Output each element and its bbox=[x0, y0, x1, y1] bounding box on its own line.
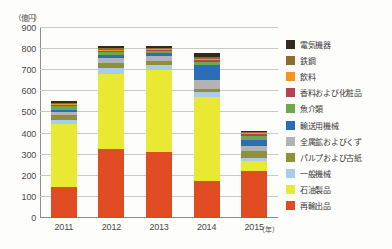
legend-item[interactable]: 飲料 bbox=[286, 68, 390, 84]
y-axis-unit-label: （億円） bbox=[14, 12, 41, 23]
legend-item[interactable]: 電気機器 bbox=[286, 36, 390, 52]
stacked-bar[interactable] bbox=[241, 131, 267, 218]
y-tick-label-0: 0 bbox=[2, 213, 36, 223]
legend-item[interactable]: 石油製品 bbox=[286, 182, 390, 198]
legend-swatch-icon bbox=[286, 185, 295, 194]
bar-segment[interactable] bbox=[194, 65, 220, 80]
y-tick-label-100: 100 bbox=[2, 192, 36, 202]
y-tick-label-200: 200 bbox=[2, 171, 36, 181]
legend-swatch-icon bbox=[286, 56, 295, 65]
legend-label: 輸送用機械 bbox=[300, 120, 339, 131]
bar-segment[interactable] bbox=[241, 171, 267, 218]
legend-label: 電気機器 bbox=[300, 39, 331, 50]
y-tick-label-300: 300 bbox=[2, 150, 36, 160]
legend-label: 一般機械 bbox=[300, 168, 331, 179]
legend-label: 全属鉱およびくず bbox=[300, 136, 362, 147]
x-tick-label-2012: 2012 bbox=[85, 222, 137, 232]
legend-label: 香料および化粧品 bbox=[300, 87, 362, 98]
legend-swatch-icon bbox=[286, 169, 295, 178]
legend-item[interactable]: 香料および化粧品 bbox=[286, 85, 390, 101]
bar-segment[interactable] bbox=[241, 151, 267, 158]
legend-swatch-icon bbox=[286, 88, 295, 97]
legend-item[interactable]: 一般機械 bbox=[286, 166, 390, 182]
legend-item[interactable]: パルプおよび古紙 bbox=[286, 149, 390, 165]
y-tick-label-500: 500 bbox=[2, 107, 36, 117]
y-tick-label-600: 600 bbox=[2, 86, 36, 96]
bar-segment[interactable] bbox=[98, 74, 124, 149]
bar-segment[interactable] bbox=[146, 152, 172, 218]
bar-segment[interactable] bbox=[241, 161, 267, 171]
legend-label: 再輸出品 bbox=[300, 200, 331, 211]
bar-segment[interactable] bbox=[51, 124, 77, 187]
gridline-900 bbox=[40, 27, 278, 28]
bar-segment[interactable] bbox=[146, 70, 172, 151]
legend-swatch-icon bbox=[286, 121, 295, 130]
legend-item[interactable]: 鉄鋼 bbox=[286, 52, 390, 68]
bar-segment[interactable] bbox=[194, 80, 220, 89]
plot-area bbox=[40, 28, 278, 218]
x-axis-unit-label: （年） bbox=[258, 224, 279, 234]
stacked-bar[interactable] bbox=[51, 101, 77, 218]
stacked-bar[interactable] bbox=[194, 53, 220, 218]
stacked-bar[interactable] bbox=[146, 46, 172, 218]
legend-swatch-icon bbox=[286, 40, 295, 49]
y-tick-label-400: 400 bbox=[2, 129, 36, 139]
legend-item[interactable]: 輸送用機械 bbox=[286, 117, 390, 133]
bar-segment[interactable] bbox=[98, 149, 124, 218]
bar-segment[interactable] bbox=[194, 181, 220, 218]
legend-swatch-icon bbox=[286, 137, 295, 146]
x-tick-label-2014: 2014 bbox=[181, 222, 233, 232]
x-tick-label-2011: 2011 bbox=[38, 222, 90, 232]
bar-segment[interactable] bbox=[51, 187, 77, 218]
legend-swatch-icon bbox=[286, 153, 295, 162]
legend-swatch-icon bbox=[286, 201, 295, 210]
stacked-bar[interactable] bbox=[98, 46, 124, 218]
y-tick-label-800: 800 bbox=[2, 44, 36, 54]
stacked-bar-chart: （億円） 0100200300400500600700800900 201120… bbox=[0, 0, 392, 249]
legend-item[interactable]: 全属鉱およびくず bbox=[286, 133, 390, 149]
legend-item[interactable]: 魚介類 bbox=[286, 101, 390, 117]
legend-label: パルプおよび古紙 bbox=[300, 152, 362, 163]
bar-segment[interactable] bbox=[194, 97, 220, 180]
legend-label: 魚介類 bbox=[300, 103, 323, 114]
legend-swatch-icon bbox=[286, 72, 295, 81]
x-tick-label-2013: 2013 bbox=[133, 222, 185, 232]
legend-label: 飲料 bbox=[300, 71, 315, 82]
y-tick-label-900: 900 bbox=[2, 23, 36, 33]
chart-legend: 電気機器鉄鋼飲料香料および化粧品魚介類輸送用機械全属鉱およびくずパルプおよび古紙… bbox=[286, 36, 390, 214]
legend-label: 鉄鋼 bbox=[300, 55, 315, 66]
legend-item[interactable]: 再輸出品 bbox=[286, 198, 390, 214]
y-axis-tick-labels: 0100200300400500600700800900 bbox=[0, 28, 36, 218]
legend-label: 石油製品 bbox=[300, 184, 331, 195]
legend-swatch-icon bbox=[286, 104, 295, 113]
y-tick-label-700: 700 bbox=[2, 65, 36, 75]
